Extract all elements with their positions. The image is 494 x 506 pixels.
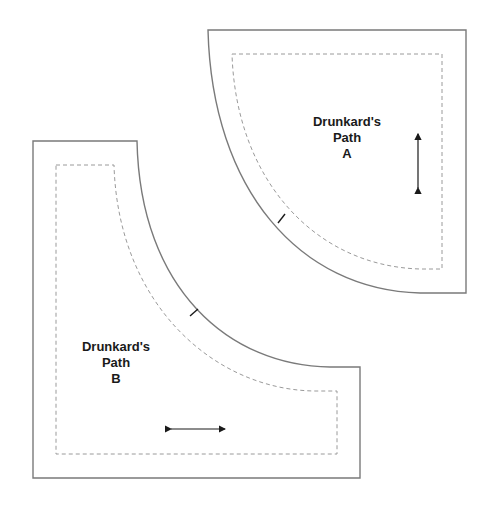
- piece-b: [33, 141, 360, 478]
- piece-a-label-line3: A: [287, 146, 407, 162]
- piece-b-notch: [190, 309, 198, 316]
- piece-a-label-line1: Drunkard's: [287, 114, 407, 130]
- piece-b-label-line2: Path: [56, 355, 176, 371]
- piece-b-label-line3: B: [56, 371, 176, 387]
- piece-a-notch: [278, 214, 285, 223]
- piece-a-label-line2: Path: [287, 130, 407, 146]
- piece-b-label-line1: Drunkard's: [56, 339, 176, 355]
- piece-a-label: Drunkard's Path A: [287, 114, 407, 162]
- template-canvas: [0, 0, 494, 506]
- piece-b-label: Drunkard's Path B: [56, 339, 176, 387]
